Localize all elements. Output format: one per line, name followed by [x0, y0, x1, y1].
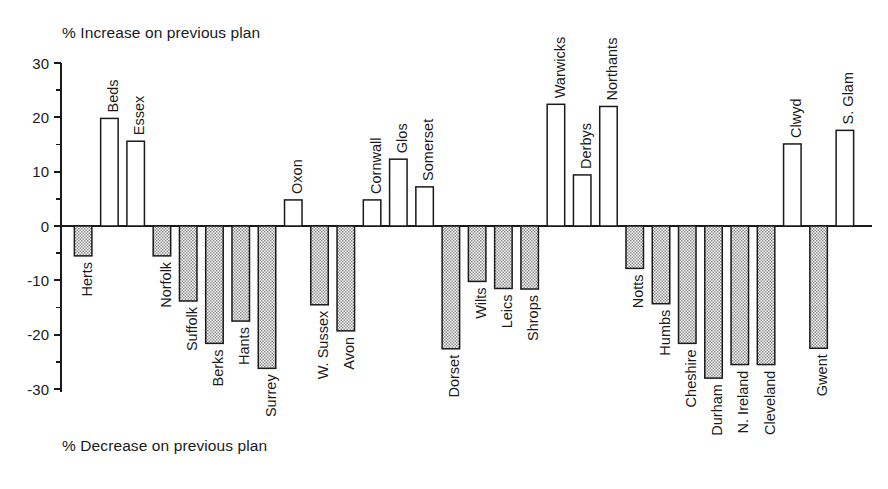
- bar-category-label: Avon: [341, 337, 357, 370]
- bar-category-label: W. Sussex: [315, 310, 331, 379]
- y-tick-label: -20: [27, 326, 49, 343]
- bar: [258, 226, 276, 368]
- y-tick-label: 30: [32, 55, 49, 72]
- bar-category-label: Oxon: [289, 159, 305, 194]
- bar: [442, 226, 460, 349]
- bar-category-label: Humbs: [657, 310, 673, 356]
- bar-category-label: S. Glam: [840, 72, 856, 124]
- bar: [626, 226, 644, 268]
- bar-category-label: Glos: [394, 123, 410, 153]
- bar-category-label: Herts: [79, 262, 95, 297]
- bar-category-label: Leics: [499, 294, 515, 328]
- bar: [311, 226, 329, 305]
- chart-container: % Increase on previous plan % Decrease o…: [0, 0, 888, 489]
- bar-category-label: Warwicks: [552, 37, 568, 98]
- bar: [416, 187, 434, 226]
- bar: [679, 226, 697, 343]
- y-tick-label: -10: [27, 272, 49, 289]
- bar-category-label: Gwent: [814, 354, 830, 396]
- bar: [757, 226, 775, 365]
- bar-category-label: Beds: [105, 79, 121, 112]
- y-tick-label: 0: [41, 218, 49, 235]
- bar-category-label: Surrey: [263, 374, 279, 417]
- bar-chart-plot: 3020100-10-20-30 HertsBedsEssexNorfolkSu…: [0, 0, 888, 489]
- bar-category-label: Berks: [210, 349, 226, 386]
- bar-category-label: Essex: [131, 95, 147, 135]
- bar: [206, 226, 224, 343]
- bar: [232, 226, 250, 321]
- bar-category-label: Somerset: [420, 119, 436, 181]
- bar-category-label: Shrops: [525, 295, 541, 341]
- bar-category-label: Notts: [630, 274, 646, 308]
- bar: [74, 226, 92, 256]
- bar: [363, 200, 381, 226]
- bar: [337, 226, 355, 331]
- bar: [285, 200, 303, 226]
- bar: [731, 226, 749, 365]
- y-tick-label: -30: [27, 381, 49, 398]
- y-tick-label: 10: [32, 163, 49, 180]
- bar-category-label: Cheshire: [683, 349, 699, 407]
- bar: [547, 104, 565, 226]
- bar: [179, 226, 197, 301]
- bar: [390, 159, 408, 226]
- bar: [495, 226, 513, 288]
- bar-category-label: Norfolk: [158, 261, 174, 308]
- bar-category-label: Suffolk: [184, 306, 200, 351]
- bar-category-label: Durham: [709, 384, 725, 436]
- bar: [521, 226, 539, 289]
- bar: [784, 144, 802, 226]
- bar: [127, 141, 145, 226]
- bar: [810, 226, 828, 348]
- bar-category-label: Clwyd: [788, 98, 804, 137]
- bar-category-label: Cleveland: [762, 371, 778, 436]
- bar: [705, 226, 723, 378]
- bar-category-label: N. Ireland: [735, 371, 751, 434]
- bar: [573, 175, 591, 226]
- bar: [600, 106, 618, 226]
- bar: [101, 118, 119, 226]
- bar-category-label: Derbys: [578, 123, 594, 169]
- bar-category-label: Wilts: [473, 287, 489, 318]
- bar-category-label: Dorset: [446, 355, 462, 398]
- bar: [836, 130, 854, 226]
- bar-category-label: Hants: [236, 327, 252, 365]
- bar: [652, 226, 670, 304]
- bar-category-label: Cornwall: [368, 137, 384, 193]
- y-tick-label: 20: [32, 109, 49, 126]
- bar: [153, 226, 171, 256]
- bar: [468, 226, 486, 281]
- bar-category-label: Northants: [604, 38, 620, 101]
